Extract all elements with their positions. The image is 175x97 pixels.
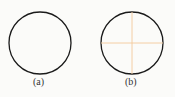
label-b: (b) <box>125 76 137 87</box>
label-a: (a) <box>33 76 44 87</box>
diagram-canvas <box>0 0 175 97</box>
circle-a <box>9 12 71 74</box>
